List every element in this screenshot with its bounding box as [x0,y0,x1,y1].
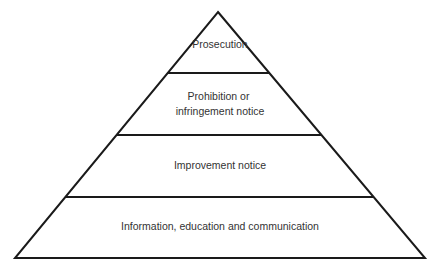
tier-label-line: infringement notice [176,105,265,117]
tier-label-prosecution: Prosecution [192,38,248,50]
tier-label-line: Information, education and communication [121,220,319,232]
tier-label-line: Prosecution [192,38,248,50]
tier-label-improvement: Improvement notice [174,159,266,171]
tier-label-information: Information, education and communication [121,220,319,232]
tier-label-line: Prohibition or [188,90,250,102]
tier-label-line: Improvement notice [174,159,266,171]
enforcement-pyramid: Prosecution Prohibition or infringement … [0,0,440,275]
